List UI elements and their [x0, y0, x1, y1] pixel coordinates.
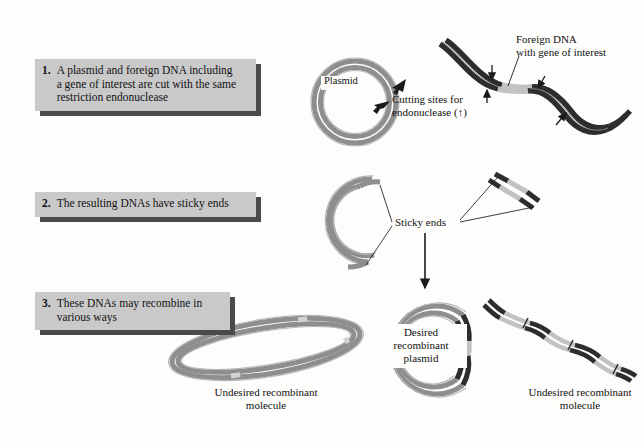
step-3-text: These DNAs may recombine in various ways — [57, 297, 203, 324]
step-1-text: A plasmid and foreign DNA including a ge… — [57, 64, 236, 105]
label-plasmid: Plasmid — [324, 74, 358, 87]
label-undesired-recombinant-left: Undesired recombinant molecule — [186, 386, 346, 412]
recombinant-dna-figure: 1. A plasmid and foreign DNA including a… — [0, 0, 644, 442]
plasmid-cut-open — [325, 176, 380, 267]
step-2-number: 2. — [42, 197, 51, 211]
label-undesired-recombinant-right: Undesired recombinant molecule — [500, 386, 644, 412]
label-foreign-dna: Foreign DNA with gene of interest — [516, 33, 606, 59]
label-sticky-ends: Sticky ends — [395, 216, 446, 229]
step-2-text: The resulting DNAs have sticky ends — [57, 197, 229, 211]
step-1-caption: 1. A plasmid and foreign DNA including a… — [35, 59, 256, 111]
label-cutting-sites: Cutting sites for endonuclease (↑) — [392, 93, 467, 119]
step-3-caption: 3. These DNAs may recombine in various w… — [35, 292, 230, 330]
foreign-dna-leader-line — [508, 56, 519, 86]
undesired-recombinant-right — [484, 300, 636, 381]
step-2-caption: 2. The resulting DNAs have sticky ends — [35, 192, 256, 217]
step-1-number: 1. — [42, 64, 51, 78]
plasmid-intact — [311, 58, 399, 146]
label-desired-recombinant-plasmid: Desired recombinant plasmid — [378, 326, 464, 365]
step-3-number: 3. — [42, 297, 51, 311]
